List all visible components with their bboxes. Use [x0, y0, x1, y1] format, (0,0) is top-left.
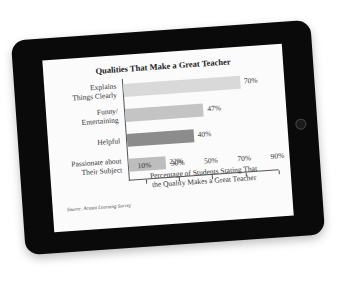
category-label: Passionate aboutTheir Subject: [46, 156, 122, 179]
bar: [127, 129, 194, 147]
bar-value-label: 40%: [197, 129, 211, 139]
category-label: Funny/Entertaining: [43, 106, 119, 129]
source-note: Source: Acosta Learning Survey: [67, 203, 132, 212]
bar-value-label: 70%: [244, 76, 258, 86]
x-tick-label: 50%: [204, 156, 218, 166]
category-label: ExplainsThings Clearly: [42, 81, 117, 104]
x-tick-label: 70%: [237, 153, 251, 163]
bar-value-label: 47%: [207, 103, 221, 113]
bar: [125, 103, 204, 121]
x-tick-label: 30%: [171, 158, 185, 168]
category-label-line: Helpful: [45, 136, 120, 150]
x-tick-label: 90%: [270, 151, 284, 161]
tablet-screen: Qualities That Make a Great Teacher Expl…: [42, 44, 293, 232]
category-label: Helpful: [45, 136, 120, 150]
home-button[interactable]: [295, 118, 307, 130]
tablet-device: Qualities That Make a Great Teacher Expl…: [11, 20, 325, 255]
bar: [123, 76, 240, 97]
x-tick-label: 10%: [137, 160, 151, 170]
